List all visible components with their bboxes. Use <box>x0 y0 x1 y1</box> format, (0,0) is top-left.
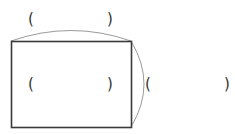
close-paren: ) <box>107 11 113 28</box>
right-height-blank[interactable]: ( ) <box>145 76 231 93</box>
open-paren: ( <box>28 76 34 93</box>
rectangle-diagram: ( ) ( ) ( ) <box>0 0 235 134</box>
top-width-blank[interactable]: ( ) <box>28 11 114 28</box>
open-paren: ( <box>28 11 34 28</box>
close-paren: ) <box>224 76 230 93</box>
top-width-brace-arc <box>11 31 131 42</box>
open-paren: ( <box>145 76 151 93</box>
center-area-blank[interactable]: ( ) <box>28 76 114 93</box>
close-paren: ) <box>107 76 113 93</box>
right-height-brace-arc <box>131 41 144 127</box>
